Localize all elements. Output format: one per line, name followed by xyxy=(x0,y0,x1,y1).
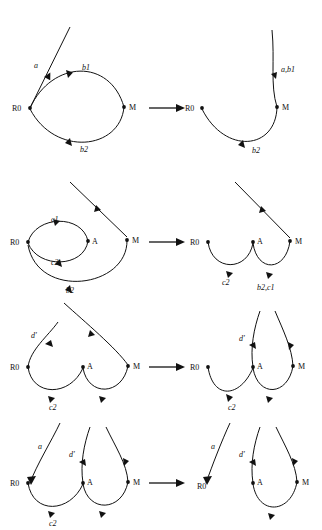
node-label-R0: R0 xyxy=(185,104,194,113)
edge-label-c2: c2 xyxy=(228,403,236,412)
edge-label-a-b1: a,b1 xyxy=(281,65,295,74)
node-M xyxy=(122,105,126,109)
node-A xyxy=(81,481,85,485)
edge-d-prime xyxy=(252,427,260,483)
edge-c2 xyxy=(28,483,83,506)
node-R0 xyxy=(206,365,210,369)
edge-label-b2: b2 xyxy=(252,146,260,155)
node-label-R0: R0 xyxy=(190,238,199,247)
node-R0 xyxy=(28,106,32,110)
row-3-right-graph: R0 A M d' c2 xyxy=(190,311,305,412)
node-label-R0: R0 xyxy=(12,104,21,113)
node-A xyxy=(81,365,85,369)
row-1-transition-arrow xyxy=(149,104,185,112)
edge-label-c2: c2 xyxy=(49,403,57,412)
edge-label-d-prime: d' xyxy=(239,334,245,343)
edge-open-to-M-arrowhead xyxy=(88,330,95,337)
node-R0 xyxy=(200,106,204,110)
arrow-head xyxy=(176,479,185,487)
edge-open-to-M xyxy=(275,311,293,366)
edge-c2-arrowhead xyxy=(226,394,233,402)
edge-c2 xyxy=(208,367,253,391)
edge-label-c2: c2 xyxy=(222,278,230,287)
row-4-right-graph: R0 A M a d' xyxy=(197,423,309,520)
edge-a xyxy=(206,423,230,483)
edge-label-d-prime: d' xyxy=(31,331,37,340)
edge-label-a: a xyxy=(38,442,42,451)
node-label-M: M xyxy=(282,103,289,112)
row-2-left-graph: R0 A M c1 c2 b2 xyxy=(10,182,139,295)
edge-open-to-M xyxy=(276,427,297,482)
node-label-R0: R0 xyxy=(190,363,199,372)
edge-label-a: a xyxy=(211,442,215,451)
edge-c1 xyxy=(28,221,88,242)
edge-b2-arrowhead xyxy=(65,138,72,146)
edge-d-prime-arrowhead xyxy=(45,340,53,347)
edge-label-d-prime: d' xyxy=(239,450,245,459)
edge-c2 xyxy=(28,367,83,390)
edge-open-to-M-arrowhead xyxy=(288,342,294,350)
edge-A-to-M-arrowhead xyxy=(268,513,275,520)
edge-open-to-M xyxy=(64,303,128,365)
node-M xyxy=(275,105,279,109)
edge-label-a: a xyxy=(34,61,38,70)
node-label-M: M xyxy=(129,103,136,112)
row-4-transition-arrow xyxy=(149,479,185,487)
edge-label-b2-c1: b2,c1 xyxy=(257,283,275,292)
node-label-M: M xyxy=(298,362,305,371)
node-A xyxy=(251,240,255,244)
edge-a-arrowhead xyxy=(44,71,53,80)
node-label-M: M xyxy=(133,478,140,487)
node-label-R0: R0 xyxy=(10,238,19,247)
node-M xyxy=(126,364,130,368)
edge-label-c2: c2 xyxy=(49,519,57,528)
figure-canvas: R0 M a b1 b2 R0 M a,b1 b2 xyxy=(0,0,322,530)
edge-b2-c1-arrowhead xyxy=(266,272,273,279)
node-M xyxy=(291,364,295,368)
node-A xyxy=(86,239,90,243)
edge-a-b1 xyxy=(272,30,277,107)
edge-label-c2: c2 xyxy=(51,258,59,267)
node-R0 xyxy=(26,481,30,485)
row-3-transition-arrow xyxy=(149,363,185,371)
edge-A-to-M-arrowhead xyxy=(99,396,106,403)
edge-label-b2: b2 xyxy=(80,145,88,154)
edge-A-to-M-arrowhead xyxy=(266,396,273,403)
edge-b2 xyxy=(28,240,127,281)
node-label-A: A xyxy=(257,237,263,246)
node-label-A: A xyxy=(92,237,98,246)
edge-open-to-M-arrowhead xyxy=(123,458,129,466)
row-2-transition-arrow xyxy=(149,238,185,246)
edge-c2 xyxy=(208,242,253,265)
node-label-M: M xyxy=(133,362,140,371)
node-label-A: A xyxy=(257,362,263,371)
edge-label-b1: b1 xyxy=(82,63,90,72)
node-label-M: M xyxy=(295,237,302,246)
node-A xyxy=(251,481,255,485)
node-label-A: A xyxy=(257,478,263,487)
node-label-R0: R0 xyxy=(197,482,206,491)
arrow-head xyxy=(176,363,185,371)
row-1-left-graph: R0 M a b1 b2 xyxy=(12,27,136,154)
node-label-A: A xyxy=(87,478,93,487)
node-M xyxy=(295,480,299,484)
edge-a xyxy=(30,423,60,483)
row-4-left-graph: R0 A M a d' c2 xyxy=(10,423,140,528)
edge-label-d-prime: d' xyxy=(69,450,75,459)
edge-b2 xyxy=(202,107,277,141)
edge-c2-arrowhead xyxy=(226,271,233,278)
node-M xyxy=(288,239,292,243)
edge-d-prime xyxy=(252,311,260,367)
edge-A-to-M-arrowhead xyxy=(99,511,106,518)
graph-transformation-figure: R0 M a b1 b2 R0 M a,b1 b2 xyxy=(0,0,322,530)
edge-label-c1: c1 xyxy=(51,215,59,224)
edge-b1-arrowhead xyxy=(66,70,73,78)
edge-c2-arrowhead xyxy=(48,511,55,518)
row-3-left-graph: R0 A M d' c2 xyxy=(10,303,140,412)
arrow-head xyxy=(176,104,185,112)
edge-d-prime xyxy=(82,427,90,483)
edge-open-to-M xyxy=(106,427,128,482)
node-R0 xyxy=(26,365,30,369)
edge-open-to-M-arrowhead xyxy=(292,458,298,466)
edge-d-prime xyxy=(28,322,58,367)
